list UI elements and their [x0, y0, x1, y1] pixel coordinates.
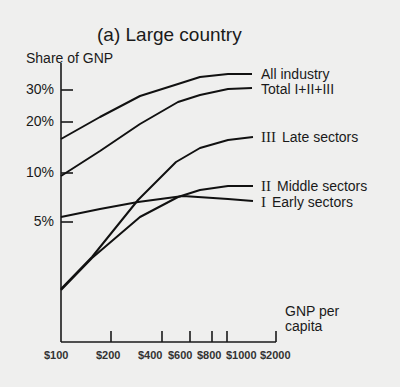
x-tick-200: $200 [96, 349, 120, 361]
x-axis-label: GNP per capita [285, 304, 339, 334]
x-tick-600: $600 [168, 349, 192, 361]
label-early-sectors: IEarly sectors [261, 194, 353, 211]
x-tick-2000: $2000 [260, 349, 291, 361]
roman-ii: II [261, 178, 271, 194]
series-early [61, 196, 253, 217]
label-late-sectors: IIILate sectors [261, 129, 358, 146]
roman-iii: III [261, 129, 276, 145]
roman-i: I [261, 194, 266, 210]
series-all-industry [61, 74, 252, 139]
label-middle-sectors: IIMiddle sectors [261, 178, 367, 195]
series-middle [61, 186, 253, 290]
series-late [61, 137, 253, 289]
label-total: Total I+II+III [261, 81, 334, 97]
x-tick-1000: $1000 [226, 349, 257, 361]
x-tick-100: $100 [44, 349, 68, 361]
label-all-industry: All industry [261, 66, 329, 82]
x-tick-400: $400 [138, 349, 162, 361]
x-tick-800: $800 [197, 349, 221, 361]
series-total [61, 88, 252, 176]
